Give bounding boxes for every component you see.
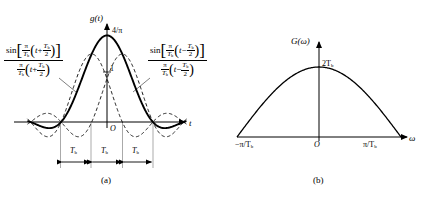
panel-a-unit-label: 1 [110,64,114,73]
panel-b-origin-label: O [314,140,320,149]
panel-b-right-tick-label: π/T [363,140,374,149]
interval-sub-1: b [74,150,76,155]
formula-left-T3-sub: b [42,64,44,69]
formula-right-paren-close2: ) [189,63,194,77]
interval-sub-3: b [136,150,138,155]
figure-container: g(t) t O 4/π 1 Tb Tb Tb (a) sin[πTb(t+Tb… [0,0,429,197]
formula-right-T2-sub: b [191,45,193,50]
formula-left-T-sub2: b [22,72,24,77]
formula-left-T2-sub: b [47,45,49,50]
panel-a-plot [0,0,215,197]
panel-a-interval-guides [61,122,154,168]
formula-left-paren-close2: ) [45,63,50,77]
panel-a-caption: (a) [101,175,111,185]
formula-left-bracket-close: ] [55,42,61,59]
panel-a-y-axis-label: g(t) [90,13,103,23]
formula-right-T-sub: b [171,53,173,58]
formula-right-two2: 2 [181,71,189,78]
leader-line-right [133,78,150,92]
panel-b-y-axis-label: G(ω) [291,36,310,46]
panel-a-origin-label: O [110,124,116,133]
formula-left-two2: 2 [37,71,45,78]
formula-right-sin: sin [150,45,161,55]
formula-right-T-sub2: b [166,72,168,77]
formula-left-sin: sin [6,45,17,55]
panel-b-right-tick-sub: b [374,144,376,149]
interval-sub-2: b [105,150,107,155]
panel-a-peak-label: 4/π [112,26,122,35]
formula-right-bracket-close: ] [199,42,205,59]
panel-b-peak-sub: b [331,63,333,68]
panel-a-x-axis-label: t [189,118,192,128]
panel-b-left-tick-label: −π/T [235,140,251,149]
panel-b-left-tick-sub: b [251,144,253,149]
leader-line-left [59,78,76,92]
formula-left-two: 2 [43,51,51,58]
formula-right-two: 2 [187,51,195,58]
panel-b-x-axis-label: ω [409,133,415,143]
formula-right-T3-sub: b [186,64,188,69]
panel-b-plot [215,0,429,197]
formula-left-T-sub: b [27,53,29,58]
panel-b-peak-label: 2T [322,59,331,68]
panel-b-caption: (b) [313,175,324,185]
formula-left: sin[πTb(t+Tb2)] πTb(t+Tb2) [4,42,63,78]
formula-right: sin[πTb(t−Tb2)] πTb(t−Tb2) [148,42,207,78]
